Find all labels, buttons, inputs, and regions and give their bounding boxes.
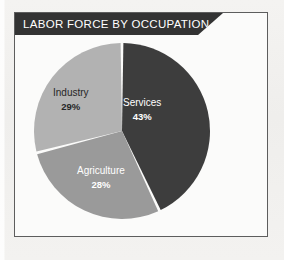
pie-graphic xyxy=(32,41,212,221)
pie-svg xyxy=(32,41,212,221)
pie-chart: Services 43% Industry 29% Agriculture 28… xyxy=(15,35,267,236)
panel-title-banner: LABOR FORCE BY OCCUPATION xyxy=(15,13,223,35)
panel-title: LABOR FORCE BY OCCUPATION xyxy=(15,18,209,30)
chart-panel: LABOR FORCE BY OCCUPATION Services 43% I… xyxy=(14,12,268,237)
